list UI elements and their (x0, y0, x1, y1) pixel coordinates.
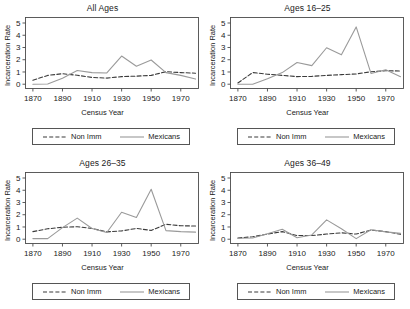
x-tick-label: 1910 (83, 249, 101, 258)
y-tick-label: 1 (16, 68, 21, 77)
x-tick-label: 1890 (54, 249, 72, 258)
legend: Non Imm Mexicans (32, 128, 190, 145)
y-tick-label: 5 (221, 174, 226, 183)
y-tick-label: 2 (16, 210, 21, 219)
x-axis-label: Census Year (0, 263, 205, 272)
plot-area: 012345187018901910193019501970 (0, 155, 205, 275)
x-tick-label: 1970 (172, 94, 190, 103)
y-tick-label: 3 (221, 43, 226, 52)
y-tick-label: 1 (221, 68, 226, 77)
y-tick-label: 4 (16, 186, 21, 195)
y-tick-label: 5 (16, 174, 21, 183)
x-axis-label: Census Year (0, 108, 205, 117)
legend: Non Imm Mexicans (237, 283, 395, 300)
y-tick-label: 2 (16, 55, 21, 64)
y-tick-label: 0 (16, 80, 21, 89)
y-tick-label: 0 (221, 80, 226, 89)
x-tick-label: 1930 (113, 94, 131, 103)
solid-line-icon (119, 288, 145, 296)
panel-ages-26-35: Ages 26–35 Incarceration Rate 0123451870… (0, 155, 205, 309)
y-tick-label: 2 (221, 55, 226, 64)
x-tick-label: 1870 (229, 94, 247, 103)
x-tick-label: 1890 (259, 94, 277, 103)
legend-label-mexicans: Mexicans (148, 132, 180, 141)
solid-line-icon (119, 133, 145, 141)
dashed-line-icon (42, 133, 68, 141)
y-tick-label: 5 (221, 19, 226, 28)
legend-entry-non-imm: Non Imm (247, 132, 306, 141)
y-tick-label: 3 (16, 198, 21, 207)
dashed-line-icon (42, 288, 68, 296)
legend-entry-mexicans: Mexicans (324, 287, 385, 296)
x-tick-label: 1950 (142, 249, 160, 258)
x-tick-label: 1970 (377, 94, 395, 103)
plot-area: 012345187018901910193019501970 (0, 0, 205, 120)
x-tick-label: 1870 (229, 249, 247, 258)
x-tick-label: 1950 (347, 94, 365, 103)
solid-line-icon (324, 288, 350, 296)
legend-label-mexicans: Mexicans (353, 132, 385, 141)
legend-label-non-imm: Non Imm (71, 132, 101, 141)
x-tick-label: 1910 (288, 249, 306, 258)
x-axis-label: Census Year (205, 108, 410, 117)
y-tick-label: 2 (221, 210, 226, 219)
plot-area: 012345187018901910193019501970 (205, 0, 410, 120)
legend-label-non-imm: Non Imm (276, 132, 306, 141)
x-tick-label: 1930 (318, 249, 336, 258)
solid-line-icon (324, 133, 350, 141)
dashed-line-icon (247, 133, 273, 141)
dashed-line-icon (247, 288, 273, 296)
series-line-mexicans (33, 56, 196, 84)
y-tick-label: 0 (16, 235, 21, 244)
panel-all-ages: All Ages Incarceration Rate 012345187018… (0, 0, 205, 154)
x-tick-label: 1950 (347, 249, 365, 258)
series-line-mexicans (238, 220, 401, 239)
y-tick-label: 1 (221, 223, 226, 232)
legend-entry-mexicans: Mexicans (119, 287, 180, 296)
legend-label-non-imm: Non Imm (276, 287, 306, 296)
y-tick-label: 4 (221, 186, 226, 195)
x-tick-label: 1970 (172, 249, 190, 258)
legend: Non Imm Mexicans (237, 128, 395, 145)
x-tick-label: 1930 (113, 249, 131, 258)
x-axis-label: Census Year (205, 263, 410, 272)
y-tick-label: 3 (221, 198, 226, 207)
legend-label-mexicans: Mexicans (148, 287, 180, 296)
series-line-non-imm (238, 230, 401, 238)
legend-entry-non-imm: Non Imm (42, 287, 101, 296)
legend-entry-non-imm: Non Imm (247, 287, 306, 296)
x-tick-label: 1970 (377, 249, 395, 258)
y-tick-label: 3 (16, 43, 21, 52)
x-tick-label: 1870 (24, 249, 42, 258)
x-tick-label: 1910 (288, 94, 306, 103)
legend-entry-mexicans: Mexicans (119, 132, 180, 141)
legend-label-non-imm: Non Imm (71, 287, 101, 296)
y-tick-label: 5 (16, 19, 21, 28)
x-tick-label: 1870 (24, 94, 42, 103)
legend: Non Imm Mexicans (32, 283, 190, 300)
x-tick-label: 1950 (142, 94, 160, 103)
panel-ages-36-49: Ages 36–49 Incarceration Rate 0123451870… (205, 155, 410, 309)
x-tick-label: 1890 (54, 94, 72, 103)
legend-label-mexicans: Mexicans (353, 287, 385, 296)
panel-ages-16-25: Ages 16–25 Incarceration Rate 0123451870… (205, 0, 410, 154)
y-tick-label: 4 (221, 31, 226, 40)
y-tick-label: 1 (16, 223, 21, 232)
y-tick-label: 4 (16, 31, 21, 40)
legend-entry-mexicans: Mexicans (324, 132, 385, 141)
x-tick-label: 1910 (83, 94, 101, 103)
x-tick-label: 1930 (318, 94, 336, 103)
panel-grid: All Ages Incarceration Rate 012345187018… (0, 0, 410, 309)
y-tick-label: 0 (221, 235, 226, 244)
plot-area: 012345187018901910193019501970 (205, 155, 410, 275)
legend-entry-non-imm: Non Imm (42, 132, 101, 141)
x-tick-label: 1890 (259, 249, 277, 258)
